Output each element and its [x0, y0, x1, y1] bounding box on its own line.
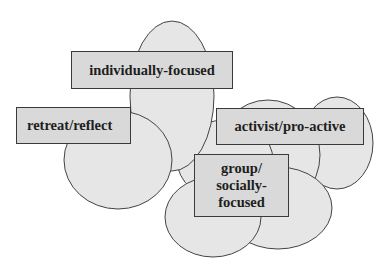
- label-individually-focused-text: individually-focused: [89, 62, 215, 79]
- label-group-line3: focused: [218, 194, 265, 211]
- label-retreat-reflect-text: retreat/reflect: [27, 117, 112, 134]
- label-retreat-reflect: retreat/reflect: [16, 107, 131, 144]
- label-activist-pro-active-text: activist/pro-active: [235, 118, 346, 135]
- label-group-line1: group/: [221, 160, 262, 177]
- label-activist-pro-active: activist/pro-active: [216, 108, 364, 145]
- label-group-line2: socially-: [216, 177, 267, 194]
- label-individually-focused: individually-focused: [71, 51, 233, 89]
- label-group-socially-focused: group/ socially- focused: [194, 154, 289, 217]
